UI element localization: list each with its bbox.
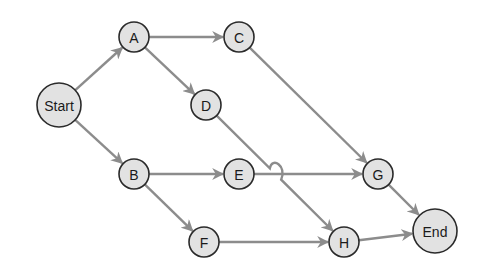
node-label: E bbox=[234, 167, 243, 183]
node-h: H bbox=[329, 227, 359, 257]
node-end: End bbox=[413, 209, 457, 253]
edge-a-to-d bbox=[145, 47, 194, 94]
node-c: C bbox=[224, 22, 254, 52]
edge-start-to-a bbox=[75, 48, 122, 90]
edges-layer bbox=[75, 37, 419, 242]
node-start: Start bbox=[37, 83, 81, 127]
edge-h-to-end bbox=[359, 234, 412, 240]
node-a: A bbox=[119, 22, 149, 52]
node-label: C bbox=[234, 30, 244, 46]
edge-b-to-f bbox=[145, 184, 193, 230]
node-e: E bbox=[224, 159, 254, 189]
node-label: H bbox=[339, 235, 349, 251]
node-label: B bbox=[129, 167, 138, 183]
edge-g-to-end bbox=[389, 185, 419, 215]
node-label: End bbox=[423, 224, 448, 240]
edge-c-to-g bbox=[250, 48, 367, 163]
node-g: G bbox=[363, 159, 393, 189]
node-label: A bbox=[129, 30, 139, 46]
network-diagram: StartABCDEFGHEnd bbox=[0, 0, 484, 277]
node-label: Start bbox=[44, 98, 74, 114]
node-label: D bbox=[201, 98, 211, 114]
edge-start-to-b bbox=[75, 120, 122, 163]
node-b: B bbox=[119, 159, 149, 189]
node-d: D bbox=[191, 90, 221, 120]
node-f: F bbox=[189, 227, 219, 257]
nodes-layer: StartABCDEFGHEnd bbox=[37, 22, 457, 257]
node-label: G bbox=[373, 167, 384, 183]
node-label: F bbox=[200, 235, 209, 251]
